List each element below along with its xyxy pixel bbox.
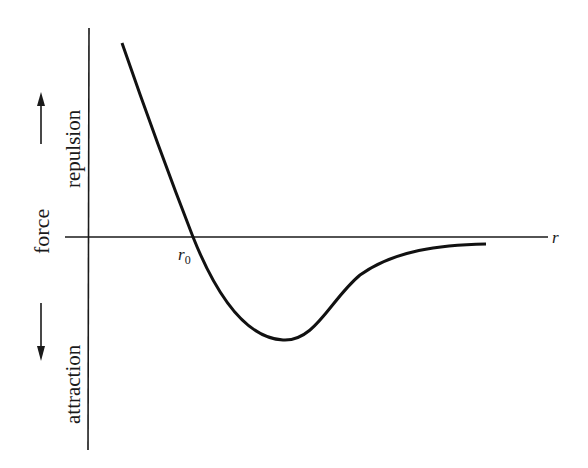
zero-crossing-label: r0 <box>178 245 191 267</box>
force-curve <box>122 43 486 340</box>
force-curve-diagram: r r0 force repulsion attraction <box>0 0 588 468</box>
force-label: force <box>29 209 54 254</box>
attraction-label: attraction <box>61 344 85 424</box>
y-axis <box>88 28 89 450</box>
repulsion-arrow-icon <box>37 92 45 144</box>
attraction-arrow-icon <box>37 303 45 361</box>
repulsion-label: repulsion <box>61 109 85 188</box>
x-axis-label: r <box>552 228 559 247</box>
